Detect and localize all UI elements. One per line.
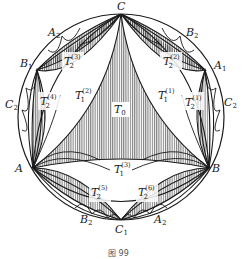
vertex-label-a1: A1	[213, 59, 226, 73]
vertex-label-a: A	[14, 162, 23, 175]
vertex-label-b1: B1	[19, 57, 33, 71]
region-t2-6	[121, 168, 209, 220]
vertex-label-c2-right: C2	[224, 96, 237, 110]
region-label-t1-1: T(1)1	[158, 87, 175, 104]
vertex-label-c1: C1	[115, 223, 128, 237]
vertex-label-b2-top: B2	[185, 26, 199, 40]
vertex-label-c: C	[117, 0, 126, 13]
region-label-t1-2: T(2)1	[75, 87, 92, 104]
vertex-label-c2-left: C2	[5, 98, 18, 112]
vertex-label-b: B	[211, 162, 220, 175]
vertex-label-a2-bottom: A2	[153, 213, 166, 227]
figure-caption: 图 99	[108, 249, 129, 258]
region-t2-4	[32, 70, 45, 168]
hyperbolic-tessellation-diagram: C A B A2 B1 C2 B2 A1 C2 B2 C1 A2 T0 T(1)…	[0, 0, 242, 259]
region-t2-1	[197, 70, 210, 168]
vertex-label-a2-top: A2	[47, 26, 60, 40]
region-label-t1-3: T(3)1	[114, 161, 131, 178]
